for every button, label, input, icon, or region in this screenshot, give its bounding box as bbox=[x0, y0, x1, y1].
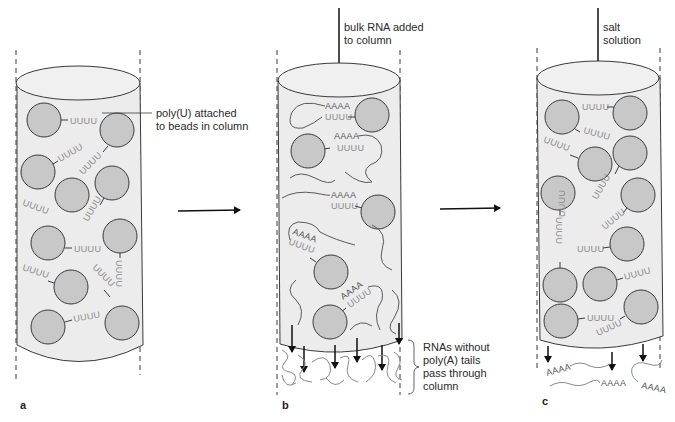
unbound-rnas-b bbox=[282, 350, 402, 385]
svg-text:UUUU: UUUU bbox=[554, 217, 564, 244]
panel-a: UUUU UUUU UUUU UUUU UUUU UUUU UUUU UUUU … bbox=[16, 50, 248, 411]
annotation-b-bottom-line3: pass through bbox=[423, 367, 487, 379]
panel-label-a: a bbox=[20, 399, 27, 411]
svg-text:UUUU: UUUU bbox=[331, 201, 358, 211]
arrow-a-to-b bbox=[178, 210, 240, 211]
annotation-b-bottom-line1: RNAs without bbox=[423, 341, 490, 353]
annotation-b-bottom-line2: poly(A) tails bbox=[423, 354, 481, 366]
panel-label-c: c bbox=[542, 395, 548, 407]
svg-text:UUUU: UUUU bbox=[114, 260, 124, 287]
panel-c: salt solution UUUU UUUU UUUU UUUU UUUU U… bbox=[537, 8, 667, 407]
svg-text:UUUU: UUUU bbox=[582, 102, 609, 112]
brace-b bbox=[408, 340, 419, 394]
annotation-c-top-line2: solution bbox=[603, 34, 641, 46]
poly-a-selection-diagram: UUUU UUUU UUUU UUUU UUUU UUUU UUUU UUUU … bbox=[0, 0, 675, 422]
svg-text:UUUU: UUUU bbox=[577, 244, 604, 254]
panel-b: bulk RNA added to column AAAA UUUU AAAA … bbox=[277, 8, 490, 411]
column-b-top bbox=[278, 63, 400, 97]
annotation-b-bottom-line4: column bbox=[423, 380, 458, 392]
panel-label-b: b bbox=[282, 399, 289, 411]
svg-text:UUUU: UUUU bbox=[70, 116, 97, 126]
eluted-aaaa-1: AAAA bbox=[545, 362, 572, 378]
annotation-b-top-line2: to column bbox=[344, 34, 392, 46]
eluted-aaaa-2: AAAA bbox=[601, 378, 626, 388]
eluted-aaaa-3: AAAA bbox=[641, 380, 668, 395]
svg-text:AAAA: AAAA bbox=[331, 190, 356, 200]
column-c-top bbox=[537, 61, 659, 95]
svg-text:UUUU: UUUU bbox=[337, 143, 364, 153]
svg-text:AAAA: AAAA bbox=[334, 131, 359, 141]
annotation-c-top-line1: salt bbox=[603, 21, 620, 33]
svg-text:AAAA: AAAA bbox=[325, 101, 350, 111]
arrow-b-to-c bbox=[440, 208, 500, 209]
eluted-rnas-c: AAAA AAAA AAAA bbox=[545, 344, 667, 395]
annotation-a-line1: poly(U) attached bbox=[156, 107, 237, 119]
svg-text:UUUU: UUUU bbox=[74, 244, 101, 254]
svg-text:UUUU: UUUU bbox=[557, 190, 567, 217]
annotation-b-top-line1: bulk RNA added bbox=[344, 21, 424, 33]
annotation-a-line2: to beads in column bbox=[156, 120, 248, 132]
column-a-top bbox=[16, 66, 140, 100]
